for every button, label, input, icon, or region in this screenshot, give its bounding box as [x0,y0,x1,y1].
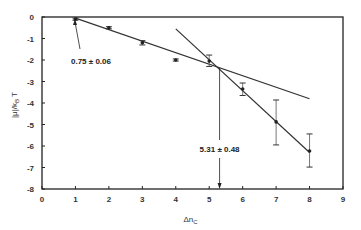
y-tick-label: -2 [27,56,35,65]
data-point [107,26,111,30]
annotation-label: 5.31 ± 0.48 [200,145,241,154]
y-tick-label: -1 [27,35,35,44]
y-tick-label: -5 [27,121,35,130]
annotation-label: 0.75 ± 0.06 [71,57,112,66]
y-tick-label: -3 [27,78,35,87]
x-tick-label: 6 [240,195,245,204]
annotation-arrow [75,22,80,49]
y-tick-label: -8 [27,185,35,194]
data-point [308,149,312,153]
y-tick-label: 0 [30,13,35,22]
data-point [141,41,145,45]
data-point [241,87,245,91]
chart: 01234567890-1-2-3-4-5-6-7-8ΔnC|μ|/kB T0.… [0,0,361,230]
x-tick-label: 2 [107,195,112,204]
y-tick-label: -4 [27,99,35,108]
x-tick-label: 4 [174,195,179,204]
x-tick-label: 3 [140,195,145,204]
x-tick-label: 8 [307,195,312,204]
y-axis-label: |μ|/kB T [10,92,20,118]
x-tick-label: 1 [73,195,78,204]
x-tick-label: 5 [207,195,212,204]
data-point [207,59,211,63]
x-axis-label: ΔnC [183,215,198,225]
y-tick-label: -6 [27,142,35,151]
y-tick-label: -7 [27,164,35,173]
arrow-head [218,183,222,189]
x-tick-label: 0 [40,195,45,204]
data-point [174,58,178,62]
data-point [274,120,278,124]
x-tick-label: 7 [274,195,279,204]
plot-frame [42,17,343,189]
x-tick-label: 9 [341,195,346,204]
